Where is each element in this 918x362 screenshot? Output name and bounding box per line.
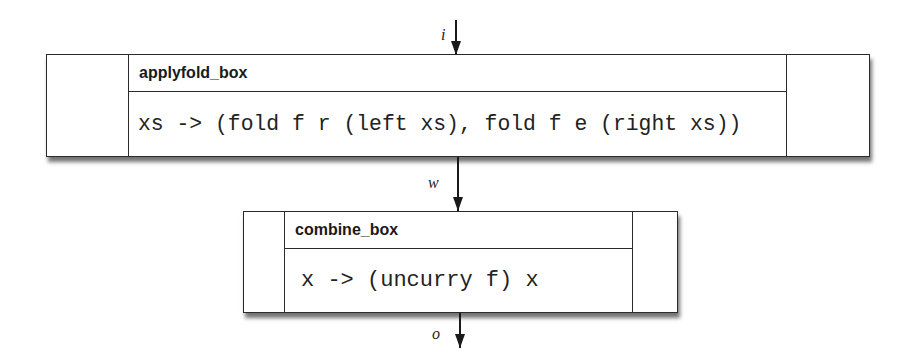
applyfold-code: xs -> (fold f r (left xs), fold f e (rig…	[129, 92, 786, 156]
applyfold-left-port	[47, 55, 129, 156]
combine-left-port	[244, 212, 285, 312]
applyfold-title: applyfold_box	[129, 55, 786, 92]
combine-title: combine_box	[285, 212, 632, 249]
arrow-head-icon	[455, 334, 465, 348]
arrow-label-i: i	[441, 26, 445, 44]
arrow-head-icon	[451, 41, 461, 55]
applyfold-body: applyfold_box xs -> (fold f r (left xs),…	[129, 55, 786, 156]
applyfold-right-port	[786, 55, 869, 156]
arrow-head-icon	[453, 197, 463, 211]
arrow-label-o: o	[432, 325, 440, 343]
combine-right-port	[632, 212, 677, 312]
combine-code: x -> (uncurry f) x	[285, 249, 632, 312]
arrow-label-w: w	[428, 174, 439, 192]
combine-box: combine_box x -> (uncurry f) x	[243, 211, 678, 313]
applyfold-box: applyfold_box xs -> (fold f r (left xs),…	[46, 54, 870, 157]
combine-body: combine_box x -> (uncurry f) x	[285, 212, 632, 312]
